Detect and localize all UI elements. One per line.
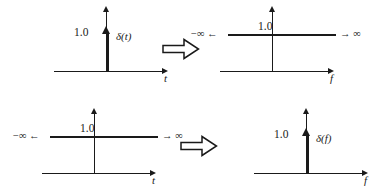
- impulse-stem: [306, 136, 309, 174]
- frequency-axis-line: [254, 173, 364, 174]
- amplitude-axis-arrow-icon: [303, 108, 309, 114]
- panel-delta-f: 1.0 δ(f) f: [248, 110, 374, 188]
- amplitude-label: 1.0: [74, 27, 88, 39]
- impulse-stem: [106, 34, 109, 72]
- constant-level-line: [228, 34, 336, 36]
- axis-label: f: [330, 73, 333, 84]
- function-label: δ(f): [316, 133, 332, 144]
- negative-infinity-label: −∞ ←: [13, 131, 40, 142]
- time-axis-line: [42, 173, 152, 174]
- impulse-arrow-icon: [302, 128, 310, 136]
- positive-infinity-label: → ∞: [340, 29, 361, 40]
- implies-arrow-icon-row2: [180, 134, 218, 158]
- axis-label: t: [164, 73, 167, 84]
- fourier-duality-figure: 1.0 δ(t) t 1.0 −∞ ← → ∞ f: [0, 0, 378, 194]
- amplitude-axis-arrow-icon: [91, 108, 97, 114]
- panel-constant-t: 1.0 −∞ ← → ∞ t: [18, 110, 196, 188]
- time-axis-line: [54, 71, 164, 72]
- amplitude-label: 1.0: [258, 21, 272, 33]
- negative-infinity-label: −∞ ←: [191, 29, 218, 40]
- impulse-arrow-icon: [102, 26, 110, 34]
- panel-constant-f: 1.0 −∞ ← → ∞ f: [196, 8, 374, 86]
- amplitude-label: 1.0: [80, 123, 94, 135]
- amplitude-axis-arrow-icon: [269, 6, 275, 12]
- constant-level-line: [50, 136, 158, 138]
- frequency-axis-line: [220, 71, 330, 72]
- implies-arrow-icon-row1: [162, 37, 200, 61]
- axis-label: f: [364, 175, 367, 186]
- panel-delta-t: 1.0 δ(t) t: [48, 8, 166, 86]
- amplitude-axis-arrow-icon: [103, 6, 109, 12]
- function-label: δ(t): [116, 31, 132, 42]
- amplitude-label: 1.0: [274, 129, 288, 141]
- axis-label: t: [152, 175, 155, 186]
